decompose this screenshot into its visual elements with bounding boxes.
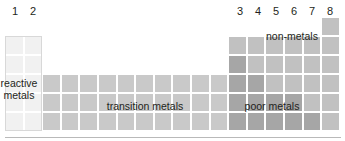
column-number-2: 2 bbox=[26, 6, 40, 17]
grid-cell bbox=[5, 55, 24, 74]
grid-cell bbox=[284, 112, 303, 131]
grid-cell bbox=[228, 55, 247, 74]
grid-cell bbox=[228, 74, 247, 93]
grid-cell bbox=[284, 93, 303, 112]
grid-cell bbox=[303, 112, 322, 131]
grid-cell bbox=[265, 93, 284, 112]
grid-cell bbox=[117, 93, 136, 112]
grid-cell bbox=[117, 112, 136, 131]
periodic-table-grid bbox=[5, 17, 341, 134]
periodic-table-figure: 12345678 reactive metals transition meta… bbox=[0, 0, 345, 141]
grid-cell bbox=[228, 93, 247, 112]
column-number-4: 4 bbox=[251, 6, 265, 17]
grid-cell bbox=[135, 112, 154, 131]
grid-cell bbox=[265, 36, 284, 55]
grid-cell bbox=[303, 93, 322, 112]
grid-cell bbox=[284, 55, 303, 74]
grid-cell bbox=[5, 36, 24, 55]
grid-cell bbox=[24, 74, 43, 93]
column-number-6: 6 bbox=[287, 6, 301, 17]
grid-cell bbox=[210, 112, 229, 131]
grid-cell bbox=[247, 36, 266, 55]
grid-cell bbox=[210, 74, 229, 93]
grid-cell bbox=[321, 55, 340, 74]
grid-cell bbox=[265, 112, 284, 131]
grid-cell bbox=[321, 112, 340, 131]
grid-cell bbox=[24, 112, 43, 131]
table-baseline-rule bbox=[5, 137, 341, 138]
column-number-8: 8 bbox=[323, 6, 337, 17]
grid-cell bbox=[172, 74, 191, 93]
grid-cell bbox=[24, 36, 43, 55]
grid-cell bbox=[154, 112, 173, 131]
grid-cell bbox=[135, 74, 154, 93]
grid-cell bbox=[210, 93, 229, 112]
grid-cell bbox=[61, 112, 80, 131]
grid-cell bbox=[265, 55, 284, 74]
grid-cell bbox=[42, 93, 61, 112]
grid-cell bbox=[117, 74, 136, 93]
grid-cell bbox=[5, 112, 24, 131]
grid-cell bbox=[228, 112, 247, 131]
grid-cell bbox=[191, 112, 210, 131]
grid-cell bbox=[247, 93, 266, 112]
grid-cell bbox=[98, 93, 117, 112]
grid-cell bbox=[5, 74, 24, 93]
grid-cell bbox=[172, 93, 191, 112]
grid-cell bbox=[5, 93, 24, 112]
grid-cell bbox=[321, 74, 340, 93]
grid-cell bbox=[247, 55, 266, 74]
grid-cell bbox=[135, 93, 154, 112]
grid-cell bbox=[154, 93, 173, 112]
grid-cell bbox=[247, 74, 266, 93]
grid-cell bbox=[303, 74, 322, 93]
column-number-7: 7 bbox=[305, 6, 319, 17]
grid-cell bbox=[321, 93, 340, 112]
grid-cell bbox=[98, 74, 117, 93]
column-number-1: 1 bbox=[8, 6, 22, 17]
grid-cell bbox=[303, 36, 322, 55]
grid-cell bbox=[42, 74, 61, 93]
grid-cell bbox=[79, 74, 98, 93]
grid-cell bbox=[42, 112, 61, 131]
grid-cell bbox=[191, 93, 210, 112]
column-number-5: 5 bbox=[269, 6, 283, 17]
grid-cell bbox=[228, 36, 247, 55]
grid-cell bbox=[284, 74, 303, 93]
grid-cell bbox=[98, 112, 117, 131]
grid-cell bbox=[154, 74, 173, 93]
grid-cell bbox=[321, 17, 340, 36]
grid-cell bbox=[24, 93, 43, 112]
grid-cell bbox=[284, 36, 303, 55]
column-number-3: 3 bbox=[233, 6, 247, 17]
grid-cell bbox=[24, 55, 43, 74]
grid-cell bbox=[172, 112, 191, 131]
grid-cell bbox=[265, 74, 284, 93]
grid-cell bbox=[79, 112, 98, 131]
grid-cell bbox=[61, 74, 80, 93]
grid-cell bbox=[79, 93, 98, 112]
grid-cell bbox=[247, 112, 266, 131]
grid-cell bbox=[321, 36, 340, 55]
grid-cell bbox=[191, 74, 210, 93]
grid-cell bbox=[303, 55, 322, 74]
grid-cell bbox=[61, 93, 80, 112]
